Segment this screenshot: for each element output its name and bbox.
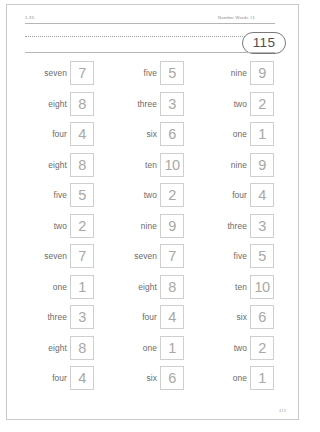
answer-digit: 7 xyxy=(168,249,176,264)
answer-box[interactable]: 8 xyxy=(70,336,94,360)
number-word-label: two xyxy=(23,221,70,231)
number-word-label: four xyxy=(23,129,70,139)
problem-row: nine9 xyxy=(203,150,285,181)
problem-row: two2 xyxy=(113,180,195,211)
answer-box[interactable]: 6 xyxy=(160,122,184,146)
section-rule xyxy=(25,52,275,53)
answer-box[interactable]: 2 xyxy=(160,183,184,207)
problem-row: one1 xyxy=(203,119,285,150)
answer-digit: 8 xyxy=(78,341,86,356)
answer-box[interactable]: 2 xyxy=(70,214,94,238)
problem-row: six6 xyxy=(113,119,195,150)
number-word-label: three xyxy=(203,221,250,231)
answer-box[interactable]: 1 xyxy=(160,336,184,360)
number-word-label: seven xyxy=(23,68,70,78)
answer-box[interactable]: 6 xyxy=(160,366,184,390)
problem-row: eight8 xyxy=(23,333,105,364)
number-word-label: eight xyxy=(23,343,70,353)
answer-digit: 4 xyxy=(78,127,86,142)
answer-digit: 6 xyxy=(258,310,266,325)
answer-box[interactable]: 5 xyxy=(250,244,274,268)
answer-box[interactable]: 7 xyxy=(70,61,94,85)
answer-box[interactable]: 8 xyxy=(160,275,184,299)
problem-row: five5 xyxy=(113,58,195,89)
answer-box[interactable]: 4 xyxy=(70,122,94,146)
answer-digit: 3 xyxy=(78,310,86,325)
problem-row: three3 xyxy=(203,211,285,242)
number-word-label: six xyxy=(113,373,160,383)
answer-digit: 1 xyxy=(168,341,176,356)
answer-box[interactable]: 1 xyxy=(250,122,274,146)
column-2: five5three3six6ten10two2nine9seven7eight… xyxy=(113,58,195,394)
answer-box[interactable]: 9 xyxy=(250,61,274,85)
answer-box[interactable]: 1 xyxy=(250,366,274,390)
answer-box[interactable]: 6 xyxy=(250,305,274,329)
answer-box[interactable]: 2 xyxy=(250,336,274,360)
answer-box[interactable]: 4 xyxy=(70,366,94,390)
answer-digit: 4 xyxy=(78,371,86,386)
problem-row: two2 xyxy=(23,211,105,242)
number-word-label: two xyxy=(203,99,250,109)
number-word-label: eight xyxy=(23,160,70,170)
problem-row: eight8 xyxy=(23,150,105,181)
answer-digit: 8 xyxy=(168,280,176,295)
answer-box[interactable]: 8 xyxy=(70,92,94,116)
answer-box[interactable]: 7 xyxy=(160,244,184,268)
number-word-label: six xyxy=(203,312,250,322)
problem-row: five5 xyxy=(23,180,105,211)
answer-digit: 8 xyxy=(78,158,86,173)
number-word-label: one xyxy=(23,282,70,292)
problem-row: one1 xyxy=(113,333,195,364)
answer-box[interactable]: 10 xyxy=(160,153,184,177)
problem-row: three3 xyxy=(113,89,195,120)
number-word-label: one xyxy=(113,343,160,353)
answer-digit: 6 xyxy=(168,127,176,142)
number-word-label: five xyxy=(203,251,250,261)
answer-digit: 10 xyxy=(254,280,269,295)
number-word-label: three xyxy=(113,99,160,109)
answer-box[interactable]: 4 xyxy=(160,305,184,329)
answer-digit: 9 xyxy=(258,66,266,81)
answer-digit: 7 xyxy=(78,249,86,264)
problem-row: three3 xyxy=(23,302,105,333)
answer-box[interactable]: 8 xyxy=(70,153,94,177)
answer-box[interactable]: 9 xyxy=(250,153,274,177)
problem-row: eight8 xyxy=(113,272,195,303)
answer-box[interactable]: 3 xyxy=(160,92,184,116)
answer-digit: 8 xyxy=(78,97,86,112)
answer-box[interactable]: 3 xyxy=(70,305,94,329)
worksheet-header: 1-35 Number Words #1 xyxy=(25,15,275,28)
footer-code: 419 xyxy=(279,409,286,413)
answer-box[interactable]: 9 xyxy=(160,214,184,238)
student-name-line[interactable] xyxy=(25,36,273,37)
number-word-label: five xyxy=(113,68,160,78)
page-number-text: 115 xyxy=(253,36,275,50)
answer-box[interactable]: 2 xyxy=(250,92,274,116)
number-word-label: seven xyxy=(113,251,160,261)
answer-digit: 4 xyxy=(168,310,176,325)
answer-digit: 2 xyxy=(258,97,266,112)
answer-box[interactable]: 1 xyxy=(70,275,94,299)
problem-row: two2 xyxy=(203,333,285,364)
answer-box[interactable]: 5 xyxy=(160,61,184,85)
answer-digit: 1 xyxy=(258,127,266,142)
number-word-label: nine xyxy=(113,221,160,231)
number-word-label: ten xyxy=(203,282,250,292)
problem-row: four4 xyxy=(23,363,105,394)
answer-digit: 9 xyxy=(258,158,266,173)
number-word-label: two xyxy=(203,343,250,353)
answer-box[interactable]: 4 xyxy=(250,183,274,207)
answer-box[interactable]: 7 xyxy=(70,244,94,268)
answer-digit: 5 xyxy=(168,66,176,81)
answer-digit: 3 xyxy=(258,219,266,234)
page-number-badge: 115 xyxy=(242,32,286,54)
problem-row: one1 xyxy=(203,363,285,394)
column-1: seven7eight8four4eight8five5two2seven7on… xyxy=(23,58,105,394)
answer-box[interactable]: 3 xyxy=(250,214,274,238)
answer-box[interactable]: 10 xyxy=(250,275,274,299)
answer-digit: 1 xyxy=(78,280,86,295)
problem-row: nine9 xyxy=(113,211,195,242)
problem-row: seven7 xyxy=(23,58,105,89)
answer-box[interactable]: 5 xyxy=(70,183,94,207)
answer-digit: 6 xyxy=(168,371,176,386)
